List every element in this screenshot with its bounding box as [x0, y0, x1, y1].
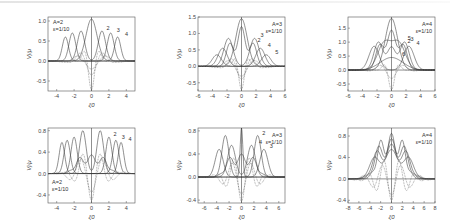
x-tick-label: -4 [360, 93, 365, 99]
x-tick-label: -2 [72, 93, 77, 99]
y-tick-label: -0.5 [37, 78, 46, 84]
x-tick-label: -4 [54, 205, 59, 211]
chart-svg: -6-4-20246-0.50.00.51.01.5ξ0Vj/μ23456A=4… [300, 0, 450, 111]
y-tick-label: 0.4 [188, 151, 196, 157]
panel-bottom-right: -8-6-4-202468-0.40.00.40.8ξ0Vj/μA=4ε=1/1… [300, 111, 450, 222]
x-tick-label: 0 [90, 93, 93, 99]
y-tick-label: -0.4 [187, 197, 196, 203]
curve-number-label: 3 [122, 134, 125, 140]
annotation-A: A=2 [53, 19, 63, 25]
y-axis-title: Vj/μ [326, 48, 332, 59]
y-axis-title: Vj/μ [326, 160, 332, 171]
y-tick-label: 0.5 [38, 38, 46, 44]
x-tick-label: -2 [227, 205, 232, 211]
annotation-A: A=3 [272, 132, 282, 138]
x-tick-label: -4 [367, 205, 372, 211]
x-tick-label: -4 [214, 205, 219, 211]
x-tick-label: 4 [269, 93, 272, 99]
x-tick-label: -6 [202, 205, 207, 211]
x-axis-title: ξ0 [88, 214, 95, 221]
curve-number-label: 6 [402, 51, 405, 57]
x-axis-title: ξ0 [388, 214, 395, 221]
x-tick-label: -6 [346, 93, 351, 99]
annotation-epsilon: ε=1/10 [416, 28, 432, 34]
x-tick-label: 4 [125, 93, 128, 99]
x-tick-label: -4 [54, 93, 59, 99]
annotation-A: A=4 [422, 21, 432, 27]
x-tick-label: 6 [423, 205, 426, 211]
annotation-A: A=2 [52, 179, 62, 185]
y-tick-label: 1.5 [338, 25, 346, 31]
y-tick-label: -0.5 [187, 80, 196, 86]
x-axis-title: ξ0 [238, 102, 245, 109]
y-tick-label: 0.0 [38, 58, 46, 64]
annotation-epsilon: ε=1/10 [266, 28, 282, 34]
x-tick-label: -4 [210, 93, 215, 99]
x-tick-label: -2 [375, 93, 380, 99]
x-tick-label: 6 [283, 93, 286, 99]
curve-number-label: 4 [259, 139, 262, 145]
y-tick-label: 0.0 [188, 174, 196, 180]
x-tick-label: 6 [433, 93, 436, 99]
y-tick-label: 1.0 [188, 30, 196, 36]
x-tick-label: -6 [196, 93, 201, 99]
x-tick-label: 8 [433, 205, 436, 211]
chart-svg: -4-2024-0.50.00.51.0ξ0Vj/μ234A=2ε=1/10 [0, 0, 150, 111]
x-tick-label: 2 [107, 93, 110, 99]
chart-svg: -8-6-4-202468-0.40.00.40.8ξ0Vj/μA=4ε=1/1… [300, 111, 450, 223]
y-axis-title: Vj/μ [176, 160, 182, 171]
y-tick-label: 0.8 [338, 133, 346, 139]
y-axis-title: Vj/μ [176, 48, 182, 59]
annotation-A: A=3 [272, 21, 282, 27]
y-tick-label: 0.4 [38, 149, 46, 155]
curve-number-label: 3 [261, 32, 264, 38]
x-tick-label: 2 [254, 93, 257, 99]
y-axis-title: Vj/μ [26, 160, 32, 171]
x-tick-label: 0 [390, 93, 393, 99]
annotation-epsilon: ε=1/10 [266, 139, 282, 145]
x-tick-label: 4 [265, 205, 268, 211]
x-tick-label: 6 [277, 205, 280, 211]
y-tick-label: 0.5 [188, 47, 196, 53]
y-tick-label: 0.0 [38, 171, 46, 177]
x-axis-title: ξ0 [238, 214, 245, 221]
chart-svg: -6-4-20246-0.50.00.51.01.5ξ0Vj/μ2345A=3ε… [150, 0, 300, 111]
y-tick-label: 0.0 [188, 63, 196, 69]
curve-number-label: 2 [262, 130, 265, 136]
x-tick-label: 2 [401, 205, 404, 211]
y-tick-label: 1.5 [188, 14, 196, 20]
curve-number-label: 2 [113, 131, 116, 137]
curve-number-label: 3 [411, 36, 414, 42]
curve-number-label: 2 [106, 25, 109, 31]
x-tick-label: -2 [72, 205, 77, 211]
curve-number-label: 4 [416, 40, 419, 46]
curve-number-label: 5 [408, 35, 411, 41]
curve-number-label: 4 [129, 136, 132, 142]
y-tick-label: -0.4 [337, 197, 346, 203]
y-tick-label: -0.5 [337, 81, 346, 87]
x-tick-label: 2 [252, 205, 255, 211]
x-axis-title: ξ0 [88, 102, 95, 109]
annotation-epsilon: ε=1/10 [53, 26, 69, 32]
chart-svg: -4-2024-0.40.00.40.8ξ0Vj/μ234A=2ε=1/10 [0, 111, 150, 223]
x-tick-label: -2 [378, 205, 383, 211]
annotation-epsilon: ε=1/10 [416, 139, 432, 145]
curve-number-label: 4 [125, 31, 128, 37]
panel-top-left: -4-2024-0.50.00.51.0ξ0Vj/μ234A=2ε=1/10 [0, 0, 150, 111]
y-tick-label: 0.5 [338, 53, 346, 59]
panel-top-middle: -6-4-20246-0.50.00.51.01.5ξ0Vj/μ2345A=3ε… [150, 0, 300, 111]
curve-number-label: 3 [117, 27, 120, 33]
y-tick-label: 0.4 [338, 154, 346, 160]
annotation-epsilon: ε=1/10 [52, 186, 68, 192]
y-tick-label: 0.8 [38, 128, 46, 134]
x-tick-label: 4 [125, 205, 128, 211]
y-tick-label: 0.8 [188, 128, 196, 134]
panel-bottom-left: -4-2024-0.40.00.40.8ξ0Vj/μ234A=2ε=1/10 [0, 111, 150, 222]
y-tick-label: -0.4 [37, 192, 46, 198]
y-axis-title: Vj/μ [26, 48, 32, 59]
x-tick-label: 4 [419, 93, 422, 99]
x-axis-title: ξ0 [388, 102, 395, 109]
y-tick-label: 0.0 [338, 176, 346, 182]
chart-svg: -6-4-20246-0.40.00.40.8ξ0Vj/μ234A=3ε=1/1… [150, 111, 300, 223]
annotation-A: A=4 [422, 132, 432, 138]
